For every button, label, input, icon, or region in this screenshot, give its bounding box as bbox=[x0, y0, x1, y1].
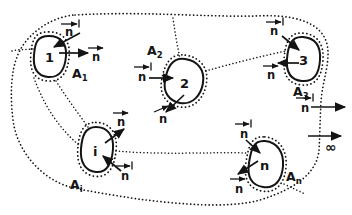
cut-line-outer-to-region-1 bbox=[12, 49, 33, 51]
svg-text:n: n bbox=[138, 70, 146, 84]
region-1-number: 1 bbox=[45, 50, 54, 65]
svg-text:n: n bbox=[92, 50, 100, 64]
figure-canvas: 1 A1 n n 2 A2 n n 3 A3 n n i Ai bbox=[0, 0, 352, 215]
region-i-number: i bbox=[93, 144, 97, 159]
svg-text:n: n bbox=[117, 115, 125, 129]
region-n-area-label: An bbox=[286, 169, 302, 186]
cut-line-outer-to-region-2 bbox=[173, 18, 180, 58]
svg-text:n: n bbox=[301, 101, 309, 115]
region-3-number: 3 bbox=[299, 53, 308, 68]
region-1-outward-normal-label: n bbox=[88, 48, 103, 64]
infinity-label: ∞ bbox=[325, 139, 337, 155]
region-2-inward-normal-label: n bbox=[134, 63, 151, 84]
region-2-number: 2 bbox=[180, 76, 189, 91]
diagram-svg: 1 A1 n n 2 A2 n n 3 A3 n n i Ai bbox=[0, 0, 352, 215]
region-i-area-label: Ai bbox=[70, 177, 83, 194]
cut-line-region-1-to-region-i-right bbox=[56, 81, 88, 127]
region-i-outward-normal-label: n bbox=[113, 113, 128, 129]
svg-text:n: n bbox=[240, 127, 248, 141]
region-2-area-label: A2 bbox=[147, 43, 163, 60]
cut-line-region-1-to-region-i-left bbox=[34, 78, 80, 146]
svg-text:n: n bbox=[159, 112, 167, 126]
region-n-outward-normal-label: n bbox=[230, 179, 245, 196]
cut-line-region-i-to-region-n bbox=[116, 151, 246, 153]
svg-text:n: n bbox=[267, 68, 275, 82]
region-n-number: n bbox=[260, 158, 269, 173]
svg-text:n: n bbox=[270, 24, 278, 38]
region-2-outward-normal-label: n bbox=[154, 106, 168, 126]
region-i-inward-normal-label: n bbox=[116, 162, 132, 183]
svg-text:n: n bbox=[121, 169, 129, 183]
svg-text:n: n bbox=[235, 182, 243, 196]
region-n-inward-normal-label: n bbox=[235, 120, 251, 141]
region-1-area-label: A1 bbox=[72, 66, 88, 83]
region-3-outward-normal-label: n bbox=[263, 66, 278, 82]
svg-text:n: n bbox=[65, 25, 73, 39]
region-3-inward-normal-label: n bbox=[266, 18, 283, 38]
